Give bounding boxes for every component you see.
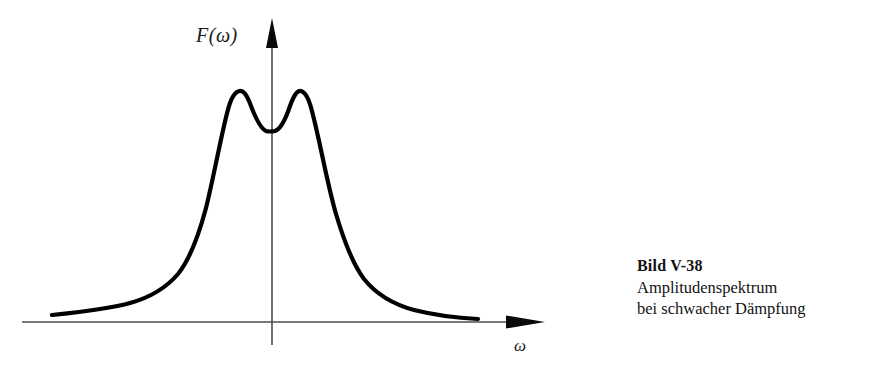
spectrum-curve: [52, 91, 478, 319]
figure-panel: F(ω) ω: [0, 0, 600, 377]
x-axis-label: ω: [514, 337, 526, 354]
x-axis-arrowhead: [506, 316, 545, 329]
y-axis-label: F(ω): [196, 25, 238, 45]
y-axis-arrowhead: [266, 18, 278, 48]
amplitude-spectrum-plot: [0, 0, 600, 377]
figure-caption: Bild V-38 Amplitudenspektrum bei schwach…: [637, 255, 877, 319]
caption-line-1: Amplitudenspektrum: [637, 277, 877, 298]
caption-figure-number: Bild V-38: [637, 255, 877, 276]
caption-line-2: bei schwacher Dämpfung: [637, 298, 877, 319]
